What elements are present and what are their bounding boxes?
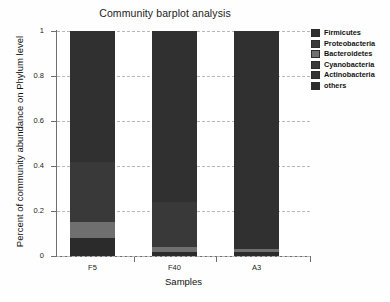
legend-swatch-icon bbox=[311, 82, 320, 90]
x-axis-tick-label: F5 bbox=[63, 263, 123, 272]
legend-item: Cyanobacteria bbox=[311, 60, 390, 71]
chart-figure: Community barplot analysis 00.20.40.60.8… bbox=[0, 0, 390, 302]
bar-segment-proteobacteria bbox=[152, 202, 197, 247]
x-axis-tick bbox=[134, 257, 135, 262]
y-axis-tick bbox=[51, 256, 57, 257]
x-axis-title: Samples bbox=[57, 276, 310, 287]
x-axis-tick-label: F40 bbox=[145, 263, 205, 272]
legend: FirmicutesProteobacteriaBacteroidetesCya… bbox=[311, 28, 390, 91]
bar-segment-bacteroidetes bbox=[70, 222, 115, 238]
bar-segment-proteobacteria bbox=[70, 162, 115, 223]
legend-item: Bacteroidetes bbox=[311, 49, 390, 60]
legend-item: Proteobacteria bbox=[311, 39, 390, 50]
legend-label: Cyanobacteria bbox=[324, 60, 374, 70]
y-axis-title: Percent of community abundance on Phylum… bbox=[14, 17, 25, 267]
y-axis-line bbox=[56, 30, 57, 257]
chart-title: Community barplot analysis bbox=[0, 7, 330, 19]
x-axis-tick-label: A3 bbox=[227, 263, 287, 272]
x-axis-tick bbox=[310, 257, 311, 262]
bar-segment-firmicutes bbox=[152, 31, 197, 202]
bar-F40 bbox=[152, 31, 197, 256]
legend-swatch-icon bbox=[311, 61, 320, 69]
legend-item: others bbox=[311, 81, 390, 92]
legend-item: Firmicutes bbox=[311, 28, 390, 39]
bar-segment-others bbox=[152, 252, 197, 257]
gridline bbox=[57, 256, 310, 257]
bar-segment-bacteroidetes bbox=[152, 247, 197, 252]
legend-swatch-icon bbox=[311, 40, 320, 48]
bar-segment-firmicutes bbox=[70, 31, 115, 162]
y-axis-tick bbox=[51, 121, 57, 122]
bar-segment-others bbox=[234, 252, 279, 257]
legend-label: Actinobacteria bbox=[324, 70, 375, 80]
bar-segment-bacteroidetes bbox=[234, 249, 279, 251]
legend-label: others bbox=[324, 81, 346, 91]
legend-label: Bacteroidetes bbox=[324, 49, 372, 59]
bar-segment-firmicutes bbox=[234, 31, 279, 249]
bar-segment-others bbox=[70, 238, 115, 256]
bar-F5 bbox=[70, 31, 115, 256]
legend-swatch-icon bbox=[311, 29, 320, 37]
x-axis-tick bbox=[216, 257, 217, 262]
y-axis-tick bbox=[51, 166, 57, 167]
legend-item: Actinobacteria bbox=[311, 70, 390, 81]
legend-label: Proteobacteria bbox=[324, 39, 375, 49]
y-axis-tick bbox=[51, 211, 57, 212]
bar-A3 bbox=[234, 31, 279, 256]
y-axis-tick bbox=[51, 76, 57, 77]
legend-swatch-icon bbox=[311, 71, 320, 79]
y-axis-tick bbox=[51, 31, 57, 32]
legend-swatch-icon bbox=[311, 50, 320, 58]
legend-label: Firmicutes bbox=[324, 28, 361, 38]
